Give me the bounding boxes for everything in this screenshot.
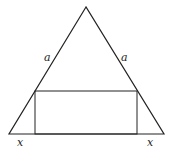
label-right-side: a	[121, 51, 128, 64]
label-bottom-right: x	[147, 136, 154, 149]
triangle-diagram: a a x x	[0, 0, 171, 149]
label-bottom-left: x	[17, 136, 24, 149]
label-left-side: a	[44, 51, 51, 64]
triangle	[9, 7, 164, 134]
inscribed-rectangle	[35, 91, 137, 134]
